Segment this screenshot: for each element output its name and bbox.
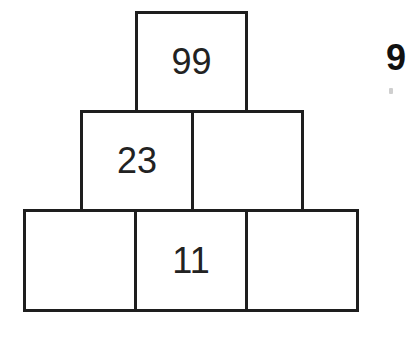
brick-middle-left: 23 bbox=[80, 110, 194, 212]
brick-bottom-left bbox=[23, 209, 137, 312]
partial-question-number: 9 bbox=[386, 40, 406, 76]
partial-edge-mark bbox=[389, 88, 393, 94]
brick-middle-right bbox=[191, 110, 304, 212]
brick-top: 99 bbox=[135, 11, 248, 113]
brick-bottom-middle: 11 bbox=[134, 209, 248, 312]
brick-bottom-right bbox=[245, 209, 359, 312]
